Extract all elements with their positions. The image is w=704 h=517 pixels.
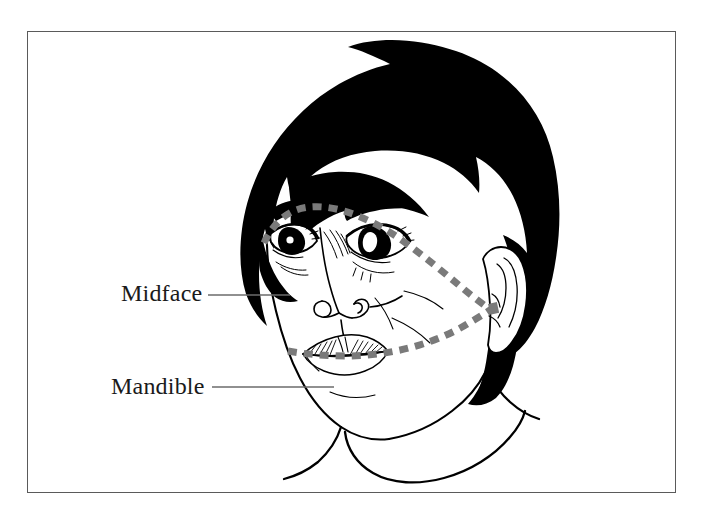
- left-eye: [270, 224, 320, 275]
- head-illustration: [0, 0, 704, 517]
- nose-bridge-lines: [324, 230, 350, 258]
- label-midface: Midface: [121, 280, 202, 307]
- label-mandible: Mandible: [111, 373, 205, 400]
- chin-crease: [330, 392, 375, 397]
- right-eye: [347, 224, 415, 282]
- figure-root: Midface Mandible: [0, 0, 704, 517]
- cheek-contour-lines: [375, 291, 443, 343]
